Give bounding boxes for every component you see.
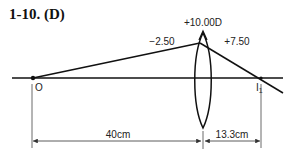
- emergent-vergence-label: +7.50: [224, 36, 250, 47]
- lens-power-label: +10.00D: [184, 17, 222, 28]
- problem-title: 1-10. (D): [9, 6, 65, 23]
- incident-vergence-label: −2.50: [149, 36, 175, 47]
- object-label: O: [35, 82, 43, 93]
- convex-lens: [195, 33, 212, 128]
- image-point: [259, 76, 262, 79]
- image-distance-label: 13.3cm: [216, 129, 249, 140]
- lens-apex-arrow-icon: [199, 31, 207, 40]
- optics-diagram: 1-10. (D) +10.00D −2.50 +7.50 O I1 40cm …: [0, 0, 293, 156]
- refracted-ray: [200, 43, 283, 93]
- object-distance-label: 40cm: [106, 129, 130, 140]
- object-point: [31, 76, 35, 80]
- incident-ray: [33, 43, 200, 78]
- image-label: I1: [256, 82, 263, 94]
